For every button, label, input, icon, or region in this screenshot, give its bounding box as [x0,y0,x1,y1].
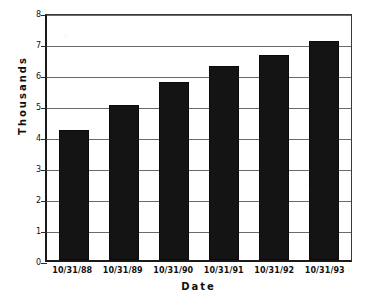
bar[interactable] [209,66,239,260]
x-axis-tick-label: 10/31/90 [149,266,197,275]
y-axis-tick-label: 5 [25,104,41,112]
bar-slot [109,15,139,260]
bar-chart: Thousands 876543210 10/31/8810/31/8910/3… [0,0,365,301]
bar[interactable] [159,82,189,260]
x-axis-tick-label: 10/31/91 [200,266,248,275]
y-axis-tick-label: 2 [25,197,41,205]
y-axis-tick-label: 8 [25,11,41,19]
y-axis-tick-label: 6 [25,73,41,81]
x-axis-tick-label: 10/31/92 [250,266,298,275]
y-axis-tick-label: 1 [25,228,41,236]
x-axis-tick-label: 10/31/93 [301,266,349,275]
y-axis-tick-label: 7 [25,42,41,50]
bar-slot [209,15,239,260]
bar[interactable] [259,55,289,260]
y-axis-tick [41,263,47,264]
x-axis-tick-labels: 10/31/8810/31/8910/31/9010/31/9110/31/92… [45,266,352,275]
bar-slot [309,15,339,260]
bar-slot [59,15,89,260]
plot-area: 876543210 [45,14,352,262]
x-axis-tick-label: 10/31/88 [48,266,96,275]
x-axis-tick-label: 10/31/89 [99,266,147,275]
bars-group [47,15,351,260]
y-axis-tick-label: 4 [25,135,41,143]
bar[interactable] [109,105,139,260]
bar[interactable] [59,130,89,260]
bar-slot [159,15,189,260]
y-axis-tick-label: 3 [25,166,41,174]
bar[interactable] [309,41,339,260]
y-axis-tick-label: 0 [25,259,41,267]
x-axis-title: Date [45,281,352,292]
bar-slot [259,15,289,260]
